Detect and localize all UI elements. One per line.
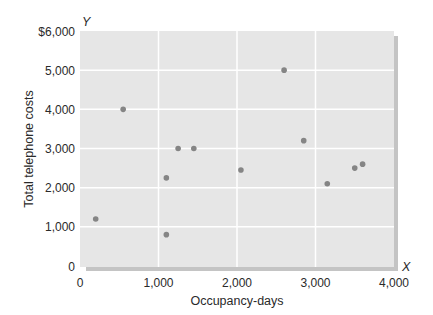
- y-tick-label: 1,000: [45, 220, 75, 234]
- data-point: [352, 165, 358, 171]
- y-axis-letter: Y: [82, 15, 92, 29]
- y-tick-label: 5,000: [45, 64, 75, 78]
- y-tick-label: 4,000: [45, 103, 75, 117]
- data-point: [120, 107, 126, 113]
- y-tick-label: 0: [68, 260, 75, 274]
- data-point: [360, 161, 366, 167]
- y-tick-label: 3,000: [45, 142, 75, 156]
- data-point: [175, 146, 181, 152]
- data-point: [164, 232, 170, 238]
- y-tick-label: 2,000: [45, 181, 75, 195]
- x-tick-label: 3,000: [300, 276, 330, 290]
- data-point: [281, 67, 287, 73]
- data-point: [238, 167, 244, 173]
- data-point: [93, 216, 99, 222]
- x-axis-title: Occupancy-days: [190, 294, 283, 308]
- y-axis-ticks: 01,0002,0003,0004,0005,000$6,000: [38, 25, 75, 274]
- x-tick-label: 0: [77, 276, 84, 290]
- x-axis-ticks: 01,0002,0003,0004,000: [77, 276, 410, 290]
- x-tick-label: 2,000: [222, 276, 252, 290]
- x-tick-label: 1,000: [143, 276, 173, 290]
- x-axis-letter: X: [401, 260, 411, 274]
- data-point: [191, 146, 197, 152]
- data-point: [301, 138, 307, 144]
- y-tick-label: $6,000: [38, 25, 75, 39]
- x-tick-label: 4,000: [379, 276, 409, 290]
- y-axis-title: Total telephone costs: [22, 90, 36, 207]
- data-point: [324, 181, 330, 187]
- scatter-chart: 01,0002,0003,0004,0005,000$6,000 01,0002…: [0, 0, 433, 315]
- data-point: [164, 175, 170, 181]
